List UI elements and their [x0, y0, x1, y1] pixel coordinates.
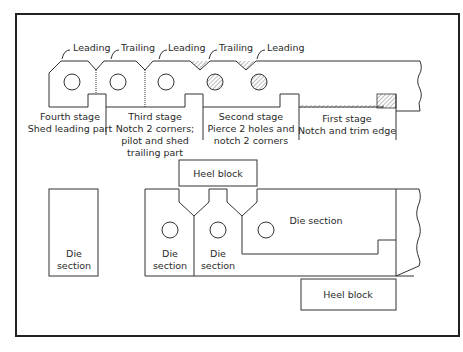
stage-4-line-2: Shed leading part [28, 123, 113, 134]
callout-leading-3: Leading [267, 42, 305, 53]
strip: Leading Trailing Leading Trailing Leadin… [28, 42, 422, 158]
die-section-long-label: Die section [289, 215, 342, 226]
die-hole-2 [210, 222, 226, 238]
stage-1-line-1: First stage [322, 113, 372, 124]
stage-3-line-2: Notch 2 corners; [116, 123, 195, 134]
stage-3-line-4: trailing part [127, 147, 183, 158]
die-section-1-label-1: Die [162, 248, 178, 259]
callout-leading-2: Leading [168, 42, 206, 53]
hole-1 [64, 74, 80, 90]
die-end-block [396, 189, 420, 276]
stage-3-line-3: pilot and shed [121, 135, 189, 146]
leader-trailing-2 [209, 50, 217, 59]
die-section-left-label-1: Die [66, 248, 82, 259]
notch-hatch-1 [190, 61, 210, 70]
stage-4-line-1: Fourth stage [40, 111, 100, 122]
die-section-2-label-1: Die [210, 248, 226, 259]
hole-2 [110, 74, 126, 90]
leader-trailing-1 [111, 50, 119, 59]
diagram-canvas: Leading Trailing Leading Trailing Leadin… [0, 0, 463, 352]
pierced-hole-2 [251, 74, 267, 90]
stage-2-line-2: Pierce 2 holes and [207, 123, 294, 134]
callout-trailing-2: Trailing [218, 42, 253, 53]
die-hole-3 [258, 222, 274, 238]
stage-2-line-1: Second stage [219, 111, 284, 122]
heel-block-top-label: Heel block [193, 168, 243, 179]
notch-hatch-2 [236, 61, 256, 70]
first-notch-hatch [377, 94, 396, 108]
leader-leading-2 [159, 50, 167, 59]
pierced-hole-1 [207, 74, 223, 90]
die-section-2-label-2: section [201, 260, 235, 271]
callout-trailing-1: Trailing [120, 42, 155, 53]
die-layout: Heel block Die section Die section Die s… [49, 160, 420, 310]
leader-leading-3 [257, 50, 265, 59]
die-section-1-label-2: section [153, 260, 187, 271]
strip-outline [49, 61, 421, 111]
heel-block-bottom-label: Heel block [323, 289, 373, 300]
stage-1-line-2: Notch and trim edge [298, 125, 396, 136]
die-hole-1 [162, 222, 178, 238]
stage-2-line-3: notch 2 corners [214, 135, 288, 146]
hole-3 [158, 74, 174, 90]
die-section-left-label-2: section [57, 260, 91, 271]
callout-leading-1: Leading [73, 42, 111, 53]
stage-3-line-1: Third stage [127, 111, 182, 122]
leader-leading-1 [62, 50, 70, 59]
